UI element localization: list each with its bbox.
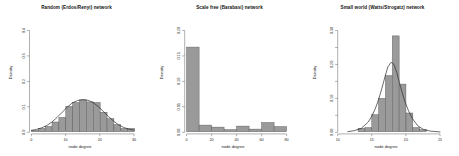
x-tick-label: 15 [370,138,374,142]
plot-area-scalefree: 0.00 0.05 0.10 0.15 0.20 0 20 40 60 80 [153,0,306,156]
bars-smallworld [358,36,426,132]
y-tick-label: 0.2 [22,79,26,84]
x-tick-label: 40 [235,138,239,142]
x-tick-label: 20 [404,138,408,142]
y-tick-label: 0.20 [177,27,181,34]
x-tick-label: 10 [64,138,68,142]
x-tick-label: 10 [336,138,340,142]
panel-smallworld-network: Small world (Watts/Strogatz) network Den… [306,0,459,156]
x-axis-random: 0 10 20 30 [30,134,136,142]
y-tick-label: 0.4 [22,28,26,33]
y-tick-label: 0.0 [22,130,26,135]
plot-area-random: 0.0 0.1 0.2 0.3 0.4 0 10 20 30 [0,0,153,156]
x-tick-label: 25 [438,138,442,142]
y-tick-label: 0.15 [177,52,181,59]
x-tick-label: 20 [98,138,102,142]
panel-scalefree-network: Scale free (Barabasi) network Density no… [153,0,306,156]
plot-area-smallworld: 0.00 0.10 0.20 0.30 10 15 20 25 [306,0,459,156]
y-axis-random: 0.0 0.1 0.2 0.3 0.4 [22,28,29,135]
x-tick-label: 0 [186,138,188,142]
y-tick-label: 0.3 [22,53,26,58]
panel-random-network: Random (Erdos/Renyi) network Density nod… [0,0,153,156]
x-tick-label: 80 [285,138,289,142]
y-tick-label: 0.00 [177,129,181,136]
bars-scalefree [187,47,287,132]
y-tick-label: 0.30 [330,27,334,34]
x-tick-label: 0 [30,138,32,142]
x-axis-scalefree: 0 20 40 60 80 [186,134,289,142]
bars-random [31,100,134,132]
y-axis-smallworld: 0.00 0.10 0.20 0.30 [330,27,338,136]
x-tick-label: 60 [260,138,264,142]
x-tick-label: 30 [132,138,136,142]
y-tick-label: 0.00 [330,129,334,136]
y-tick-label: 0.10 [177,78,181,85]
y-tick-label: 0.05 [177,103,181,110]
x-tick-label: 20 [210,138,214,142]
y-tick-label: 0.20 [330,61,334,68]
y-tick-label: 0.1 [22,104,26,109]
y-axis-scalefree: 0.00 0.05 0.10 0.15 0.20 [177,27,185,136]
histogram-figure: Random (Erdos/Renyi) network Density nod… [0,0,459,156]
x-axis-smallworld: 10 15 20 25 [336,134,442,142]
y-tick-label: 0.10 [330,95,334,102]
